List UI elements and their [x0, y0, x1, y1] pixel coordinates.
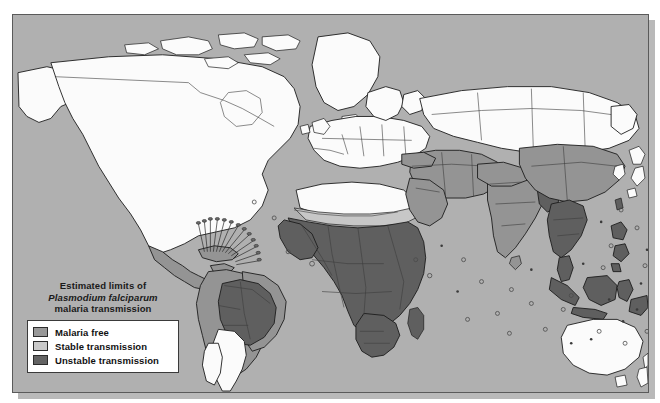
legend-title-line-3: malaria transmission — [27, 303, 179, 315]
legend-title-species: Plasmodium falciparum — [27, 292, 179, 304]
legend-item-malaria-free[interactable]: Malaria free — [33, 326, 173, 339]
map-page: .ln { fill:none; stroke:#1c1c1c; stroke-… — [0, 0, 660, 403]
legend-label-stable-transmission: Stable transmission — [55, 341, 147, 352]
legend-swatch-stable-transmission — [33, 341, 48, 351]
legend-item-unstable-transmission[interactable]: Unstable transmission — [33, 354, 173, 367]
legend-swatch-unstable-transmission — [33, 355, 48, 365]
legend-title-line-1: Estimated limits of — [27, 280, 179, 292]
map-legend: Estimated limits of Plasmodium falciparu… — [27, 280, 179, 373]
legend-item-stable-transmission[interactable]: Stable transmission — [33, 340, 173, 353]
world-map-frame[interactable]: .ln { fill:none; stroke:#1c1c1c; stroke-… — [12, 14, 649, 393]
legend-title: Estimated limits of Plasmodium falciparu… — [27, 280, 179, 315]
legend-swatch-malaria-free — [33, 327, 48, 337]
legend-label-malaria-free: Malaria free — [55, 327, 109, 338]
legend-label-unstable-transmission: Unstable transmission — [55, 355, 159, 366]
legend-key-box: Malaria free Stable transmission Unstabl… — [27, 320, 179, 373]
